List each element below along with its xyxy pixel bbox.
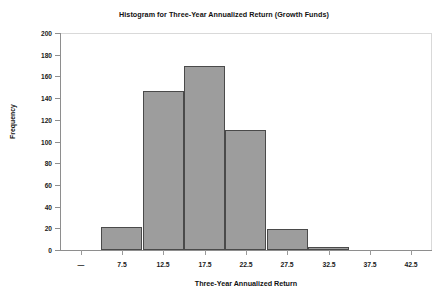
x-tick-2 — [163, 250, 164, 255]
y-tick-label-140: 140 — [22, 95, 52, 102]
x-tick-label-7: 37.5 — [350, 261, 390, 269]
y-tick-0 — [55, 250, 61, 251]
x-tick-3 — [205, 250, 206, 255]
histogram-bar — [225, 130, 266, 250]
y-tick-180 — [55, 55, 61, 56]
histogram-bar — [267, 229, 308, 250]
y-tick-140 — [55, 98, 61, 99]
y-tick-label-0: 0 — [22, 247, 52, 254]
x-tick-label-6: 32.5 — [309, 261, 349, 269]
y-tick-100 — [55, 142, 61, 143]
histogram-bar — [143, 91, 184, 250]
x-tick-label-2: 12.5 — [143, 261, 183, 269]
x-tick-5 — [287, 250, 288, 255]
y-tick-200 — [55, 33, 61, 34]
y-tick-20 — [55, 228, 61, 229]
x-tick-label-0: — — [61, 261, 101, 269]
y-tick-label-60: 60 — [22, 182, 52, 189]
x-tick-label-5: 27.5 — [267, 261, 307, 269]
y-tick-label-80: 80 — [22, 160, 52, 167]
x-tick-8 — [411, 250, 412, 255]
y-tick-80 — [55, 163, 61, 164]
chart-title: Histogram for Three-Year Annualized Retu… — [0, 10, 448, 19]
y-tick-label-100: 100 — [22, 139, 52, 146]
y-tick-label-160: 160 — [22, 73, 52, 80]
x-tick-label-4: 22.5 — [226, 261, 266, 269]
x-tick-label-8: 42.5 — [391, 261, 431, 269]
x-tick-4 — [246, 250, 247, 255]
y-tick-160 — [55, 76, 61, 77]
y-tick-label-40: 40 — [22, 204, 52, 211]
y-axis-title: Frequency — [9, 92, 16, 152]
x-tick-1 — [122, 250, 123, 255]
y-tick-label-200: 200 — [22, 30, 52, 37]
histogram-bar — [184, 66, 225, 250]
x-tick-7 — [370, 250, 371, 255]
x-tick-0 — [81, 250, 82, 255]
histogram-bar — [101, 227, 142, 250]
y-tick-60 — [55, 185, 61, 186]
y-tick-label-180: 180 — [22, 52, 52, 59]
x-tick-label-1: 7.5 — [102, 261, 142, 269]
y-tick-120 — [55, 120, 61, 121]
histogram-figure: Histogram for Three-Year Annualized Retu… — [0, 0, 448, 302]
x-tick-label-3: 17.5 — [185, 261, 225, 269]
x-tick-6 — [329, 250, 330, 255]
histogram-bar — [308, 247, 349, 250]
y-tick-40 — [55, 207, 61, 208]
y-tick-label-120: 120 — [22, 117, 52, 124]
y-tick-label-20: 20 — [22, 225, 52, 232]
x-axis-title: Three-Year Annualized Return — [60, 279, 432, 288]
